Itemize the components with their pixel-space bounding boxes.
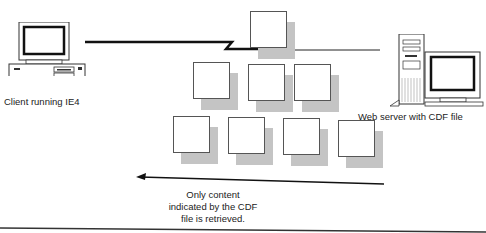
caption-line-1: Only content [158,189,268,201]
caption-line-2: indicated by the CDF [158,201,268,213]
retrieval-caption: Only content indicated by the CDF file i… [158,189,268,225]
server-computer-icon [385,34,485,112]
caption-line-3: file is retrieved. [158,213,268,225]
